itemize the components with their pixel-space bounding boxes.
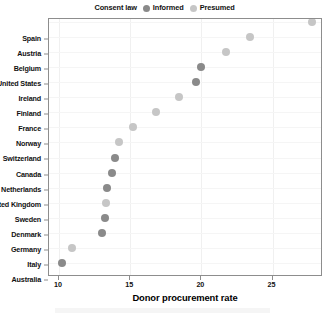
gridline-horizontal <box>49 203 321 204</box>
y-axis-label-germany: Germany <box>11 246 41 253</box>
legend-entry-informed: Informed <box>143 4 184 11</box>
data-point-switzerland <box>115 138 123 146</box>
gridline-vertical <box>130 19 131 275</box>
gridline-horizontal <box>49 112 321 113</box>
x-axis-tick-label: 25 <box>268 281 276 288</box>
y-axis: SpainAustriaBelgiumUnited StatesIrelandF… <box>0 18 48 276</box>
gridline-horizontal <box>49 218 321 219</box>
gridline-horizontal <box>49 233 321 234</box>
legend-entry-presumed: Presumed <box>190 4 235 11</box>
data-point-germany <box>98 229 106 237</box>
y-axis-label-ireland: Ireland <box>18 96 41 103</box>
gridline-vertical <box>59 19 60 275</box>
data-point-australia <box>58 259 66 267</box>
gridline-horizontal <box>49 37 321 38</box>
gridline-vertical <box>201 19 202 275</box>
y-axis-label-finland: Finland <box>16 111 41 118</box>
y-axis-label-united-kingdom: United Kingdom <box>0 201 41 208</box>
x-axis-title: Donor procurement rate <box>48 292 322 303</box>
data-point-belgium <box>222 48 230 56</box>
gridline-horizontal <box>49 263 321 264</box>
x-axis-tick-label: 10 <box>54 281 62 288</box>
data-point-italy <box>68 244 76 252</box>
data-point-sweden <box>102 199 110 207</box>
page-artifact-strip <box>55 308 270 313</box>
data-point-france <box>152 108 160 116</box>
x-axis-tick-label: 15 <box>125 281 133 288</box>
data-point-netherlands <box>108 169 116 177</box>
data-point-denmark <box>101 214 109 222</box>
legend-title: Consent law <box>94 4 136 11</box>
gridline-horizontal <box>49 188 321 189</box>
legend-label-informed: Informed <box>153 4 184 11</box>
gridline-vertical <box>273 19 274 275</box>
gridline-horizontal <box>49 127 321 128</box>
y-axis-label-spain: Spain <box>22 35 41 42</box>
y-axis-label-australia: Australia <box>12 276 41 283</box>
gridline-horizontal <box>49 52 321 53</box>
donor-procurement-rate-scatter-chart: Consent law Informed Presumed SpainAustr… <box>0 0 329 316</box>
x-axis-tick-label: 20 <box>196 281 204 288</box>
data-point-united-states <box>197 63 205 71</box>
y-axis-label-united-states: United States <box>0 81 41 88</box>
gridline-horizontal <box>49 173 321 174</box>
chart-legend: Consent law Informed Presumed <box>0 1 329 15</box>
x-axis: 10152025 <box>48 276 322 292</box>
legend-swatch-informed-icon <box>143 5 150 12</box>
y-axis-label-italy: Italy <box>27 261 41 268</box>
y-axis-label-sweden: Sweden <box>15 216 41 223</box>
gridline-horizontal <box>49 158 321 159</box>
data-point-ireland <box>192 78 200 86</box>
y-axis-label-denmark: Denmark <box>11 231 41 238</box>
gridline-horizontal <box>49 67 321 68</box>
data-point-finland <box>175 93 183 101</box>
legend-swatch-presumed-icon <box>190 5 197 12</box>
y-axis-label-france: France <box>18 126 41 133</box>
y-axis-label-canada: Canada <box>16 171 41 178</box>
gridline-horizontal <box>49 22 321 23</box>
y-axis-label-austria: Austria <box>17 50 41 57</box>
data-point-spain <box>308 18 316 26</box>
y-axis-label-switzerland: Switzerland <box>3 156 41 163</box>
y-axis-label-norway: Norway <box>16 141 41 148</box>
data-point-norway <box>129 123 137 131</box>
gridline-horizontal <box>49 142 321 143</box>
data-point-united-kingdom <box>103 184 111 192</box>
data-point-austria <box>246 33 254 41</box>
plot-area <box>48 18 322 276</box>
gridline-horizontal <box>49 97 321 98</box>
legend-label-presumed: Presumed <box>200 4 235 11</box>
gridline-horizontal <box>49 248 321 249</box>
y-axis-label-belgium: Belgium <box>14 66 41 73</box>
data-point-canada <box>111 154 119 162</box>
gridline-horizontal <box>49 82 321 83</box>
y-axis-label-netherlands: Netherlands <box>1 186 41 193</box>
